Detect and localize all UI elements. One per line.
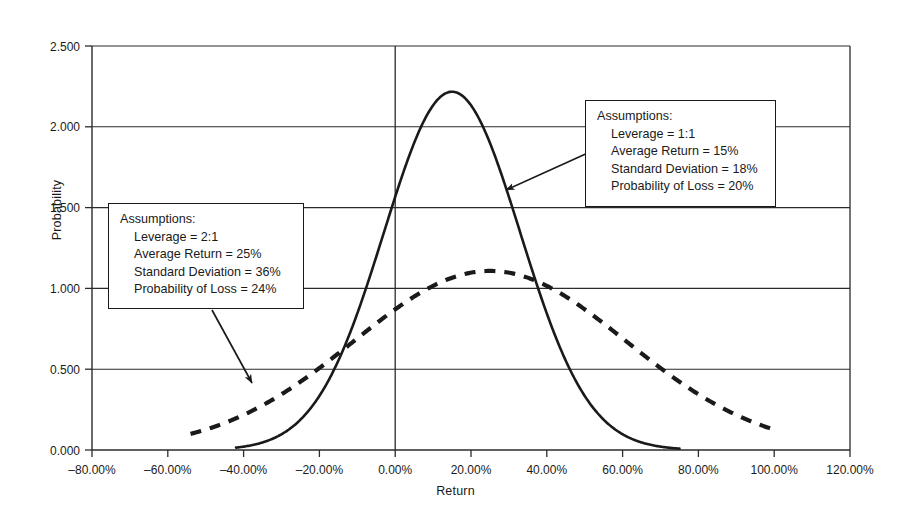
x-tick-label: 20.00% [451,463,492,477]
x-tick-label: 0.00% [378,463,412,477]
x-tick-label: –20.00% [296,463,344,477]
y-tick-label: 1.000 [50,282,80,296]
x-tick-label: –60.00% [144,463,192,477]
y-tick-label: 2.500 [50,40,80,54]
annotation-line-average-return: Average Return = 15% [597,143,766,161]
annotation-line-leverage: Leverage = 1:1 [597,126,766,144]
x-tick-label: –40.00% [220,463,268,477]
x-tick-label: 60.00% [602,463,643,477]
y-axis-label: Probability [50,165,64,255]
x-tick-label: 120.00% [826,463,874,477]
annotation-line-probability-of-loss: Probability of Loss = 24% [120,281,294,299]
arrow-anno-2 [212,310,252,383]
x-tick-label: 100.00% [751,463,799,477]
y-tick-label: 0.500 [50,363,80,377]
annotation-line-probability-of-loss: Probability of Loss = 20% [597,178,766,196]
x-tick-label: 40.00% [526,463,567,477]
y-tick-label: 2.000 [50,120,80,134]
annotation-line-average-return: Average Return = 25% [120,246,294,264]
x-axis-ticks: –80.00%–60.00%–40.00%–20.00%0.00%20.00%4… [68,450,874,477]
y-tick-label: 0.000 [50,444,80,458]
x-tick-label: –80.00% [68,463,116,477]
annotation-box-leverage-2-1: Assumptions: Leverage = 2:1 Average Retu… [108,203,304,309]
arrow-anno-1 [506,152,590,190]
annotation-line-standard-deviation: Standard Deviation = 36% [120,264,294,282]
x-tick-label: 80.00% [678,463,719,477]
annotation-line-leverage: Leverage = 2:1 [120,229,294,247]
chart-canvas: 0.0000.5001.0001.5002.0002.500 –80.00%–6… [0,0,911,516]
x-axis-label: Return [0,484,911,498]
annotation-header: Assumptions: [597,108,766,126]
annotation-line-standard-deviation: Standard Deviation = 18% [597,161,766,179]
annotation-header: Assumptions: [120,211,294,229]
annotation-box-leverage-1-1: Assumptions: Leverage = 1:1 Average Retu… [585,100,776,207]
